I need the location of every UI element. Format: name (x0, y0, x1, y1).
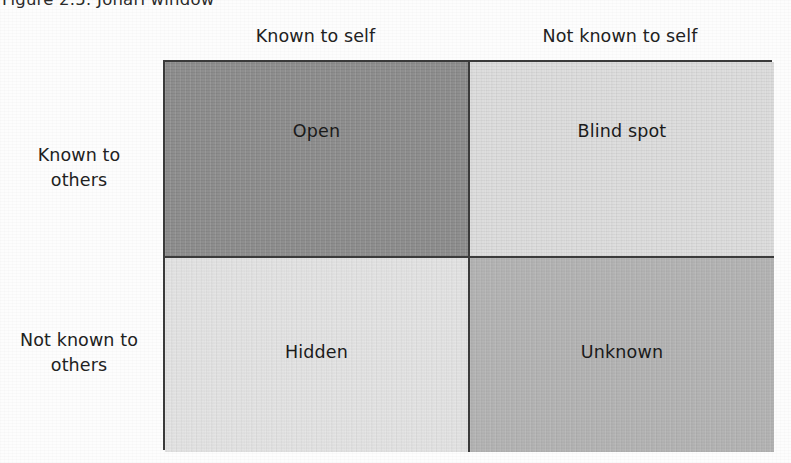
johari-window-figure: Figure 2.5: Johari window Known to self … (0, 0, 791, 463)
figure-caption-text: Figure 2.5: Johari window (2, 0, 214, 9)
row-header-not-known-to-others: Not known to others (0, 328, 158, 378)
row-header-known-to-others: Known to others (0, 143, 158, 193)
quadrant-open: Open (165, 62, 470, 258)
row-header-not-known-to-others-line2: others (0, 353, 158, 378)
column-header-not-known-to-self: Not known to self (468, 25, 772, 47)
quadrant-blind-spot-label: Blind spot (578, 120, 667, 142)
column-header-known-to-self: Known to self (163, 25, 468, 47)
quadrant-open-label: Open (293, 120, 340, 142)
quadrant-hidden: Hidden (165, 258, 470, 452)
quadrant-unknown-label: Unknown (581, 341, 663, 363)
quadrant-blind-spot: Blind spot (470, 62, 774, 258)
row-header-not-known-to-others-line1: Not known to (0, 328, 158, 353)
row-header-known-to-others-line2: others (0, 168, 158, 193)
quadrant-unknown: Unknown (470, 258, 774, 452)
johari-window-grid: Open Blind spot Hidden Unknown (163, 60, 772, 450)
quadrant-hidden-label: Hidden (285, 341, 348, 363)
row-header-known-to-others-line1: Known to (0, 143, 158, 168)
figure-caption-clipped: Figure 2.5: Johari window (0, 0, 420, 9)
